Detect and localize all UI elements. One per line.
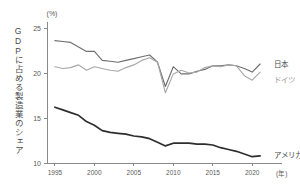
series-line-ドイツ (55, 58, 260, 93)
legend-label-日本: 日本 (274, 59, 289, 69)
x-tick-label: 2005 (127, 169, 142, 176)
line-chart-plot: 10152025 199520002005201020152020 日本ドイツア… (0, 0, 300, 194)
x-tick-label: 1995 (48, 169, 63, 176)
legend-label-ドイツ: ドイツ (274, 76, 295, 85)
y-tick-label: 10 (33, 160, 41, 167)
x-axis-unit-label: (年) (276, 169, 287, 178)
series-line-アメリカ (55, 107, 260, 157)
x-tick-label: 2015 (206, 169, 221, 176)
y-tick-label: 25 (33, 25, 41, 32)
x-tick-labels: 199520002005201020152020 (48, 169, 260, 176)
chart-container: GDPに占める製造業のシェア 10152025 1995200020052010… (0, 0, 300, 194)
y-tick-label: 15 (33, 115, 41, 122)
x-tick-label: 2020 (245, 169, 260, 176)
y-axis-title: GDPに占める製造業のシェア (8, 26, 22, 155)
y-axis-unit-label: (%) (47, 10, 58, 18)
x-tick-label: 2000 (87, 169, 102, 176)
y-tick-label: 20 (33, 70, 41, 77)
legend-group: 日本ドイツアメリカ (274, 59, 300, 161)
y-tick-labels: 10152025 (33, 25, 41, 167)
x-tick-label: 2010 (166, 169, 181, 176)
legend-label-アメリカ: アメリカ (274, 151, 300, 160)
series-lines (55, 41, 260, 157)
